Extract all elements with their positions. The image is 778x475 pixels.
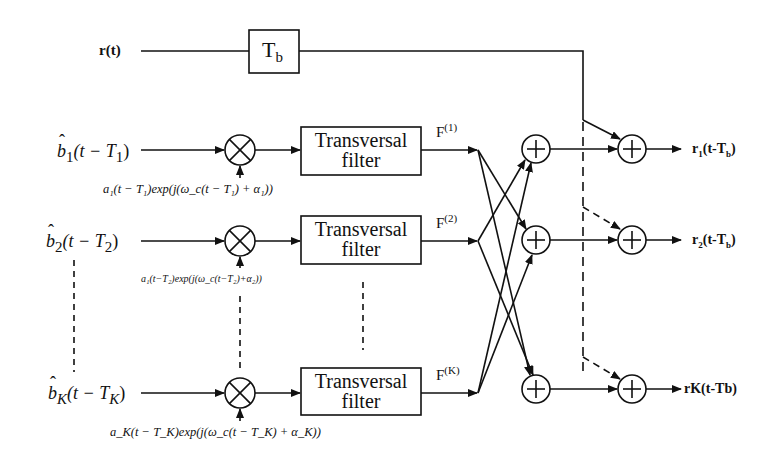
input-label-rt: r(t)	[99, 43, 121, 58]
filter-output-label-2: F(2)	[436, 213, 457, 231]
filter-output-label-k: F(K)	[436, 365, 460, 383]
dashed-arrow-final-adder-k	[583, 357, 620, 379]
transversal-filter-2-label: Transversalfilter	[301, 219, 421, 259]
arrow-to-final-adder-1	[583, 120, 620, 139]
diagram-canvas: r(t) Tb ˆb1(t − T1) ˆb2(t − T2) ˆbK(t − …	[0, 0, 778, 475]
input-label-bk: ˆbK(t − TK)	[48, 384, 125, 407]
output-label-r1: r1(t-Tb)	[692, 142, 736, 159]
output-label-r2: r2(t-Tb)	[692, 233, 736, 250]
input-label-b1: ˆb1(t − T1)	[57, 142, 129, 165]
transversal-filter-k-label: Transversalfilter	[301, 371, 421, 411]
delay-label: Tb	[262, 39, 283, 65]
transversal-filter-1-label: Transversalfilter	[301, 130, 421, 170]
modulation-label-k: a_K(t − T_K)exp(j(ω_c(t − T_K) + α_K))	[110, 426, 321, 439]
modulation-label-1: a₁(t − T₁)exp(j(ω_c(t − T₁) + α₁))	[103, 183, 273, 196]
filter-output-label-1: F(1)	[436, 122, 457, 140]
dashed-arrow-final-adder-2	[583, 207, 620, 229]
modulation-label-2: a₁(t−T₂)exp(j(ω_c(t−T₂)+α₂))	[141, 274, 262, 284]
delayed-signal-line	[299, 51, 583, 120]
output-label-rk: rK(t-Tb)	[684, 382, 737, 396]
input-label-b2: ˆb2(t − T2)	[46, 232, 118, 255]
